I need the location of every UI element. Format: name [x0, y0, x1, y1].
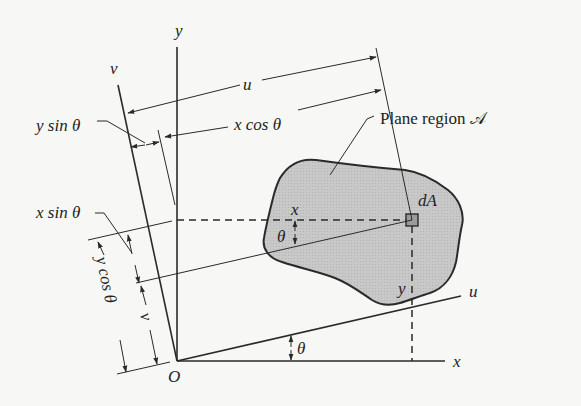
u-axis	[177, 296, 461, 361]
xsin-arrow-down	[135, 265, 139, 283]
v-dimension-label: v	[136, 311, 156, 323]
u-dimension-arrow-left	[128, 85, 240, 113]
y-coord-label: y	[396, 279, 406, 298]
ysin-arrow-a	[131, 145, 145, 147]
xsin-arrow-up	[128, 235, 132, 254]
origin-label: O	[168, 367, 180, 386]
ysin-leader	[97, 121, 145, 143]
v-axis-label: v	[110, 59, 118, 78]
v-dimension-arrow-up	[141, 286, 146, 305]
ycos-arrow-up	[98, 242, 104, 255]
xsin-label: x sin θ	[35, 203, 80, 222]
u-axis-label: u	[469, 282, 478, 301]
x-coord-label: x	[290, 200, 299, 219]
xsin-extension-top	[88, 221, 172, 240]
x-axis-label: x	[452, 352, 461, 371]
xcos-dimension-arrow-right	[298, 90, 381, 110]
u-dimension-label: u	[243, 75, 252, 94]
xcos-dimension-label: x cos θ	[233, 115, 281, 134]
ysin-label: y sin θ	[34, 116, 80, 135]
y-axis-label: y	[173, 21, 183, 40]
theta-axis-label: θ	[297, 339, 305, 358]
region-label: Plane region 𝒜	[380, 109, 488, 128]
ysin-arrow-b	[146, 142, 159, 145]
u-dimension-arrow-right	[262, 57, 376, 80]
v-dimension-arrow-down	[150, 330, 157, 364]
ycos-dimension-label: y cos θ	[92, 253, 121, 305]
diagram-canvas: y v x u O dA u x cos θ y sin θ x sin θ v…	[0, 0, 581, 406]
dA-label: dA	[418, 191, 438, 210]
xcos-dimension-arrow-left	[165, 127, 228, 137]
plane-region	[264, 160, 463, 305]
v-helper-line	[158, 130, 175, 205]
theta-element-label: θ	[277, 227, 285, 246]
ycos-arrow-down	[120, 340, 126, 372]
